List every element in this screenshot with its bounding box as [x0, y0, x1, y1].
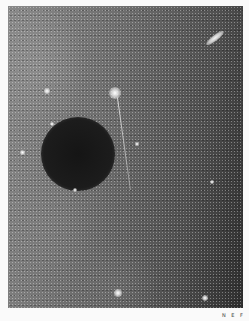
star	[20, 150, 25, 155]
star	[114, 289, 122, 297]
star	[73, 188, 77, 192]
astronomical-plate	[8, 6, 243, 308]
star	[210, 180, 214, 184]
star	[135, 142, 139, 146]
star	[50, 122, 54, 126]
bright-star	[109, 87, 121, 99]
star	[202, 295, 208, 301]
corner-label: N E F	[222, 312, 245, 318]
star	[44, 88, 50, 94]
dark-occulting-disc	[41, 117, 115, 191]
